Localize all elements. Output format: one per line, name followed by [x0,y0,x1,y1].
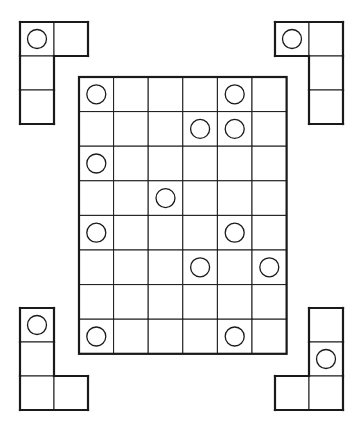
piece-cell [309,22,343,56]
piece-cell [309,376,343,410]
grid-cell[interactable] [217,77,252,112]
grid-cell[interactable] [183,146,218,181]
grid-cell[interactable] [148,215,183,250]
grid-cell[interactable] [183,112,218,147]
grid-cell[interactable] [252,285,287,320]
piece-cell [20,56,54,90]
grid-cell[interactable] [114,146,149,181]
grid-cell[interactable] [183,250,218,285]
grid-cell[interactable] [217,215,252,250]
piece-cell [20,308,54,342]
grid-cell[interactable] [79,181,114,216]
grid-cell[interactable] [252,319,287,354]
grid-cell[interactable] [183,215,218,250]
grid-cell[interactable] [114,181,149,216]
piece-cell [309,56,343,90]
grid-cell[interactable] [148,181,183,216]
grid-cell[interactable] [217,181,252,216]
grid-cell[interactable] [252,112,287,147]
grid-cell[interactable] [252,181,287,216]
grid-cell[interactable] [79,215,114,250]
grid-cell[interactable] [79,146,114,181]
grid-cell[interactable] [114,112,149,147]
grid-cell[interactable] [217,112,252,147]
grid-cell[interactable] [114,215,149,250]
grid-cell[interactable] [183,285,218,320]
grid-cell[interactable] [79,112,114,147]
grid-cell[interactable] [252,146,287,181]
piece-cell [54,376,88,410]
grid-cell[interactable] [217,319,252,354]
grid-cell[interactable] [148,146,183,181]
grid-cell[interactable] [114,250,149,285]
grid-cell[interactable] [114,319,149,354]
grid-cell[interactable] [252,77,287,112]
grid-cell[interactable] [79,250,114,285]
piece-cell [20,376,54,410]
piece-cell [20,22,54,56]
grid-cell[interactable] [114,285,149,320]
puzzle-canvas [0,0,362,431]
piece-cell [20,90,54,124]
grid-cell[interactable] [252,250,287,285]
grid-cell[interactable] [183,181,218,216]
piece-cell [309,308,343,342]
grid-cell[interactable] [252,215,287,250]
grid-cell[interactable] [148,250,183,285]
piece-cell [275,376,309,410]
grid-cell[interactable] [114,77,149,112]
piece-cell [309,90,343,124]
grid-cell[interactable] [79,77,114,112]
piece-cell [309,342,343,376]
piece-top-left[interactable] [20,22,88,124]
grid-cell[interactable] [79,319,114,354]
grid-cell[interactable] [183,77,218,112]
piece-bottom-left[interactable] [20,308,88,410]
grid-cell[interactable] [79,285,114,320]
main-grid [79,77,287,354]
piece-cell [54,22,88,56]
grid-cell[interactable] [148,112,183,147]
grid-cell[interactable] [148,285,183,320]
piece-cell [275,22,309,56]
grid-cell[interactable] [217,285,252,320]
grid-cell[interactable] [183,319,218,354]
grid-cell[interactable] [148,77,183,112]
piece-cell [20,342,54,376]
grid-cell[interactable] [148,319,183,354]
grid-cell[interactable] [217,250,252,285]
grid-cell[interactable] [217,146,252,181]
